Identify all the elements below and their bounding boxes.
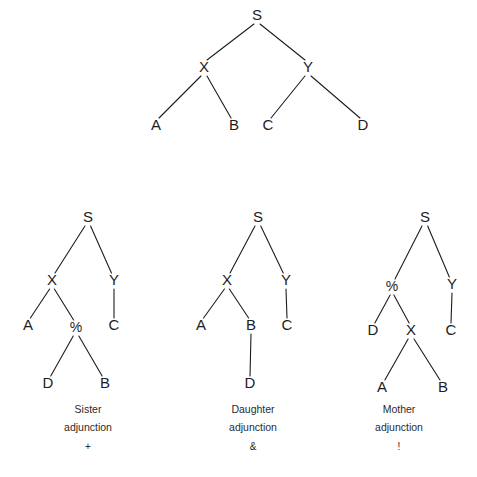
tree-edge-x-b (229, 289, 248, 318)
tree-node-x: X (47, 271, 57, 288)
tree-edge-s-y (91, 226, 112, 273)
tree-node-s: S (420, 208, 430, 225)
tree-edge-y-c (286, 289, 287, 318)
caption-line-2: adjunction (64, 421, 112, 433)
tree-node-y: Y (447, 275, 457, 292)
tree-edge-x-a (385, 339, 408, 380)
tree-node-s: S (83, 208, 93, 225)
tree-node-pct: % (70, 319, 82, 335)
caption-symbol: + (85, 441, 91, 452)
tree-node-c: C (263, 116, 274, 133)
mother-adjunction-tree: S%YDXCABMotheradjunction! (368, 208, 457, 452)
tree-node-y: Y (303, 58, 313, 75)
tree-edge-pct-d (51, 336, 73, 376)
tree-node-s: S (252, 6, 262, 23)
tree-node-y: Y (281, 271, 291, 288)
tree-node-y: Y (109, 271, 119, 288)
tree-edge-pct-d (375, 295, 390, 323)
tree-node-x: X (199, 58, 209, 75)
tree-node-c: C (446, 321, 457, 338)
caption-line-1: Daughter (231, 403, 275, 415)
tree-edge-y-c (271, 76, 305, 118)
tree-node-d: D (368, 321, 379, 338)
tree-edge-x-a (204, 289, 225, 318)
base-phrase-structure-tree: SXYABCD (151, 6, 369, 133)
tree-node-b: B (246, 316, 256, 333)
tree-edge-x-a (159, 76, 201, 118)
tree-node-c: C (109, 316, 120, 333)
caption-symbol: & (250, 441, 257, 452)
tree-edge-s-pct (395, 226, 422, 279)
tree-node-a: A (23, 316, 33, 333)
tree-node-x: X (406, 321, 416, 338)
tree-node-x: X (222, 271, 232, 288)
tree-node-a: A (151, 116, 161, 133)
caption-symbol: ! (398, 441, 401, 452)
tree-edge-y-d (311, 76, 360, 118)
tree-edge-s-y (428, 226, 450, 277)
tree-node-b: B (100, 374, 110, 391)
tree-node-pct: % (386, 278, 398, 294)
tree-edge-x-a (30, 289, 49, 318)
tree-edge-s-x (207, 24, 254, 60)
tree-node-d: D (245, 374, 256, 391)
tree-node-c: C (282, 316, 293, 333)
sister-adjunction-tree: SXYA%CDBSisteradjunction+ (23, 208, 120, 452)
tree-node-a: A (377, 378, 387, 395)
tree-drawing-canvas: SXYABCDSXYA%CDBSisteradjunction+SXYABCDD… (0, 0, 477, 477)
syntax-tree-diagram: SXYABCDSXYA%CDBSisteradjunction+SXYABCDD… (0, 0, 477, 477)
caption-line-2: adjunction (229, 421, 277, 433)
tree-node-a: A (196, 316, 206, 333)
daughter-adjunction-tree: SXYABCDDaughteradjunction& (196, 208, 293, 452)
tree-edge-pct-b (79, 336, 102, 376)
tree-edge-s-y (261, 226, 283, 273)
tree-node-d: D (358, 116, 369, 133)
caption-line-1: Sister (75, 403, 102, 415)
tree-edge-x-pct (54, 289, 73, 320)
tree-edge-y-c (451, 293, 452, 323)
tree-node-s: S (253, 208, 263, 225)
caption-line-2: adjunction (375, 421, 423, 433)
tree-edge-s-y (260, 24, 305, 60)
tree-edge-b-d (250, 334, 251, 376)
tree-edge-pct-x (394, 295, 409, 323)
tree-node-d: D (43, 374, 54, 391)
tree-edge-x-b (207, 76, 231, 118)
tree-edge-s-x (55, 226, 85, 273)
tree-edge-x-b (414, 339, 440, 380)
tree-edge-s-x (230, 226, 255, 273)
tree-node-b: B (229, 116, 239, 133)
caption-line-1: Mother (383, 403, 416, 415)
tree-node-b: B (438, 378, 448, 395)
